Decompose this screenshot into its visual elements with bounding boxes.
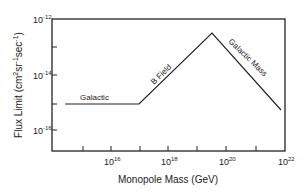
svg-text:1016: 1016 (104, 156, 121, 167)
chart: 10-12 10-14 10-16 1016 1018 1020 1022 Ga… (0, 0, 306, 193)
y-axis-ticks (52, 47, 57, 130)
plot-frame (52, 19, 285, 151)
x-axis-ticks (83, 146, 256, 151)
x-axis-label: Monopole Mass (GeV) (118, 174, 218, 185)
svg-text:10-14: 10-14 (33, 70, 52, 81)
y-axis-label: Flux Limit (cm2sr-1sec-1) (12, 32, 24, 138)
annotation-galactic: Galactic (80, 93, 109, 102)
x-tick-labels: 1016 1018 1020 1022 (104, 156, 295, 167)
y-tick-labels: 10-12 10-14 10-16 (33, 14, 52, 136)
svg-text:1022: 1022 (278, 156, 295, 167)
svg-text:10-16: 10-16 (33, 125, 52, 136)
svg-text:10-12: 10-12 (33, 14, 52, 25)
svg-text:1018: 1018 (161, 156, 178, 167)
svg-text:1020: 1020 (219, 156, 236, 167)
